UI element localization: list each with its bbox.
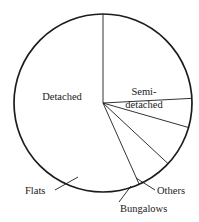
callout-label-bungalows: Bungalows [120,203,167,214]
callout-label-flats: Flats [25,185,45,196]
pie-chart-canvas: Detached Semi- detached Flats Bungalows … [0,0,199,222]
slice-label-semi-detached-line2: detached [125,99,163,110]
slice-label-semi-detached-line1: Semi- [131,86,157,97]
slice-label-detached: Detached [42,91,82,102]
callout-label-others: Others [157,185,185,196]
pie-chart-figure: Detached Semi- detached Flats Bungalows … [0,0,199,222]
